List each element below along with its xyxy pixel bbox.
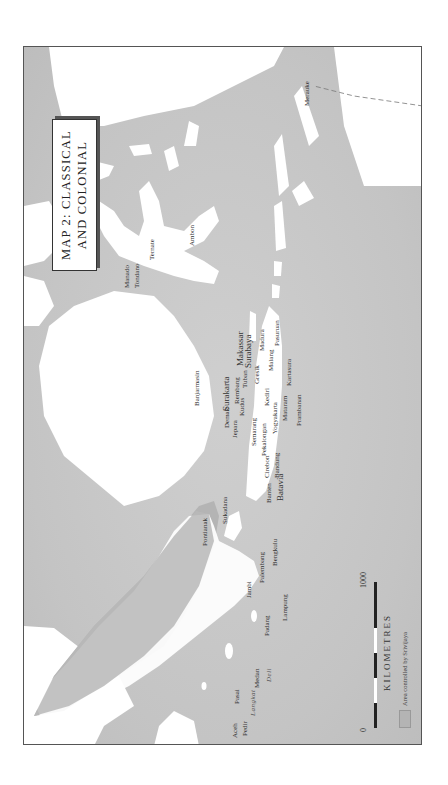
place-makassar: Makassar bbox=[236, 332, 245, 367]
scale-unit: KILOMETRES bbox=[382, 614, 392, 691]
place-manado: Manado bbox=[124, 265, 131, 288]
map-frame: MAP 2: CLASSICAL AND COLONIAL 0 1000 KIL… bbox=[23, 46, 422, 745]
place-malang: Malang bbox=[268, 350, 275, 371]
place-bandung: Bandung bbox=[274, 453, 281, 478]
scale-min-label: 0 bbox=[359, 728, 368, 732]
place-banten: Banten bbox=[266, 483, 273, 503]
map-title-line-2: AND COLONIAL bbox=[74, 130, 90, 260]
place-pedir: Pedir bbox=[242, 721, 249, 736]
place-pekalongan: Pekalongan bbox=[261, 423, 268, 456]
place-lampung: Lampung bbox=[282, 594, 289, 621]
place-surakarta: Surakarta bbox=[222, 377, 231, 411]
place-prambanan: Prambanan bbox=[296, 395, 303, 427]
scale-max-label: 1000 bbox=[359, 572, 368, 588]
place-ambon: Ambon bbox=[189, 225, 196, 246]
place-padang: Padang bbox=[264, 615, 271, 636]
place-surabaya: Surabaya bbox=[244, 335, 253, 369]
place-merauke: Merauke bbox=[304, 81, 311, 106]
place-sukadana: Sukadana bbox=[222, 497, 229, 524]
legend-label-srivijaya: Area controlled by Srivijaya bbox=[401, 632, 408, 706]
place-tuban: Tuban bbox=[242, 370, 249, 388]
place-yogyakarta: Yogyakarta bbox=[272, 402, 279, 434]
scale-segment bbox=[374, 582, 377, 628]
scale-segment bbox=[374, 703, 377, 728]
place-tondano: Tondano bbox=[134, 264, 141, 288]
map-title: MAP 2: CLASSICAL AND COLONIAL bbox=[52, 119, 97, 271]
place-jepara: Jepara bbox=[232, 420, 239, 438]
scale-segment bbox=[374, 628, 377, 653]
place-gresik: Gresik bbox=[254, 365, 261, 384]
place-bengkulu: Bengkulu bbox=[272, 539, 279, 566]
legend-swatch-srivijaya bbox=[399, 710, 411, 728]
place-deli: Deli bbox=[266, 668, 273, 682]
place-ternate: Ternate bbox=[149, 239, 156, 260]
map-title-line-1: MAP 2: CLASSICAL bbox=[58, 130, 74, 260]
place-semarang: Semarang bbox=[251, 418, 258, 446]
region-langkat: Langkat bbox=[250, 690, 257, 716]
place-pontianak: Pontianak bbox=[202, 518, 209, 546]
place-banjarmasin: Banjarmasin bbox=[194, 371, 201, 406]
place-pasuruan: Pasuruan bbox=[274, 320, 281, 346]
place-pasai: Pasai bbox=[234, 689, 241, 704]
place-rembang: Rembang bbox=[234, 377, 241, 404]
place-jambi: Jambi bbox=[246, 581, 253, 598]
map-canvas: MAP 2: CLASSICAL AND COLONIAL 0 1000 KIL… bbox=[24, 47, 422, 745]
place-medan: Medan bbox=[254, 669, 261, 688]
place-madura: Madura bbox=[259, 329, 266, 351]
place-aceh: Aceh bbox=[232, 723, 239, 738]
place-palembang: Palembang bbox=[259, 552, 266, 583]
place-cirebon: Cirebon bbox=[264, 455, 271, 478]
place-kediri: Kediri bbox=[264, 388, 271, 406]
place-kartasura: Kartasura bbox=[286, 359, 293, 386]
place-mataram: Mataram bbox=[282, 396, 289, 421]
scale-segment bbox=[374, 653, 377, 678]
scale-segment bbox=[374, 678, 377, 703]
